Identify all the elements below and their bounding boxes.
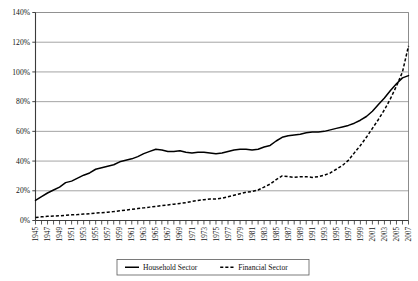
x-tick-label: 2003	[381, 227, 389, 242]
x-tick-label: 1981	[249, 227, 257, 242]
x-tick-label: 1975	[213, 227, 221, 242]
y-tick-label: 140%	[12, 8, 30, 17]
x-tick-label: 1965	[152, 227, 160, 242]
x-tick-label: 2005	[393, 227, 401, 242]
y-tick-label: 80%	[16, 97, 31, 106]
x-tick-label: 1985	[273, 227, 281, 242]
x-tick-label: 1949	[56, 227, 64, 242]
x-tick-label: 1967	[164, 227, 172, 242]
x-tick-label: 1991	[309, 227, 317, 242]
x-tick-label: 1951	[68, 227, 76, 242]
x-tick-label: 1999	[357, 227, 365, 242]
y-tick-label: 40%	[16, 157, 31, 166]
x-tick-label: 1977	[225, 227, 233, 242]
legend-label: Financial Sector	[238, 263, 288, 272]
x-tick-label: 1945	[32, 227, 40, 242]
x-tick-label: 1955	[92, 227, 100, 242]
x-tick-label: 1963	[140, 227, 148, 242]
x-tick-label: 1969	[176, 227, 184, 242]
x-tick-label: 1971	[189, 227, 197, 242]
x-tick-label: 1959	[116, 227, 124, 242]
y-tick-label: 20%	[16, 186, 31, 195]
y-tick-label: 60%	[16, 127, 31, 136]
x-tick-label: 1983	[261, 227, 269, 242]
x-tick-label: 1973	[201, 227, 209, 242]
y-tick-label: 120%	[12, 38, 30, 47]
y-tick-label: 0%	[20, 216, 31, 225]
x-tick-label: 1993	[321, 227, 329, 242]
x-tick-label: 1989	[297, 227, 305, 242]
legend-label: Household Sector	[143, 263, 198, 272]
x-axis-tick-labels: 1945194719491951195319551957195919611963…	[32, 227, 413, 242]
gridlines	[36, 13, 409, 191]
x-tick-label: 1997	[345, 227, 353, 242]
x-axis-ticks	[36, 221, 409, 225]
chart-container: 0%20%40%60%80%100%120%140% 1945194719491…	[0, 0, 418, 281]
line-chart: 0%20%40%60%80%100%120%140% 1945194719491…	[0, 0, 418, 281]
x-tick-label: 1961	[128, 227, 136, 242]
x-tick-label: 1947	[44, 227, 52, 242]
x-tick-label: 1953	[80, 227, 88, 242]
x-tick-label: 1995	[333, 227, 341, 242]
x-tick-label: 1957	[104, 227, 112, 242]
y-tick-label: 100%	[12, 68, 30, 77]
chart-legend: Household SectorFinancial Sector	[117, 260, 309, 276]
x-tick-label: 2007	[405, 227, 413, 242]
y-axis-tick-labels: 0%20%40%60%80%100%120%140%	[12, 8, 30, 225]
plot-frame	[36, 13, 409, 221]
x-tick-label: 2001	[369, 227, 377, 242]
series-line-household-sector	[36, 76, 409, 201]
x-tick-label: 1987	[285, 227, 293, 242]
x-tick-label: 1979	[237, 227, 245, 242]
